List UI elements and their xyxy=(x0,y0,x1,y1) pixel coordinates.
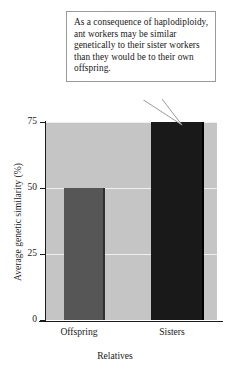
y-tick-label-75: 75 xyxy=(28,117,38,127)
y-axis-title: Average genetic similarity (%) xyxy=(13,123,23,321)
y-tick-label-25: 25 xyxy=(28,249,38,259)
y-tick-label-0: 0 xyxy=(32,315,37,325)
annotation-callout-text: As a consequence of haplodiploidy, ant w… xyxy=(74,17,209,75)
x-axis-title: Relatives xyxy=(0,350,230,361)
y-tick-75 xyxy=(40,122,46,123)
x-axis-line xyxy=(39,321,223,322)
y-tick-label-50: 50 xyxy=(28,183,38,193)
y-axis-line xyxy=(45,121,46,321)
y-tick-50 xyxy=(40,188,46,189)
x-tick-label-offspring: Offspring xyxy=(44,326,114,337)
plot-area xyxy=(46,122,217,320)
x-tick-label-sisters: Sisters xyxy=(137,326,207,337)
bar-sisters xyxy=(151,122,204,320)
y-tick-0 xyxy=(40,320,46,321)
y-tick-25 xyxy=(40,254,46,255)
annotation-callout: As a consequence of haplodiploidy, ant w… xyxy=(66,11,216,82)
bar-offspring xyxy=(64,188,105,320)
